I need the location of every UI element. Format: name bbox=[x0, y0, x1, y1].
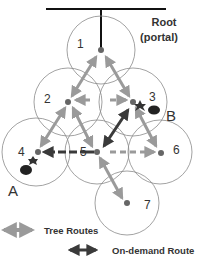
node-7-dot bbox=[124, 200, 130, 206]
endpoint-a-label: A bbox=[8, 182, 18, 199]
tree-routes-legend-label: Tree Routes bbox=[44, 225, 98, 236]
root-portal-bar bbox=[46, 9, 166, 50]
node-2-label: 2 bbox=[44, 92, 51, 106]
legend: Tree Routes On-demand Route bbox=[4, 225, 194, 256]
node-5-dot bbox=[94, 149, 100, 155]
node-3-label: 3 bbox=[149, 90, 156, 104]
endpoint-b-device bbox=[148, 106, 160, 115]
node-5-label: 5 bbox=[80, 145, 87, 159]
root-label: Root bbox=[151, 16, 176, 28]
on-demand-route-legend-label: On-demand Route bbox=[112, 245, 194, 256]
node-6-label: 6 bbox=[173, 143, 180, 157]
portal-label: (portal) bbox=[140, 31, 178, 43]
endpoint-a-device bbox=[20, 165, 32, 175]
node-4-label: 4 bbox=[18, 145, 25, 159]
star-icon-a bbox=[28, 156, 38, 165]
tree-routes bbox=[41, 57, 156, 198]
node-6-dot bbox=[158, 150, 164, 156]
node-1-dot bbox=[98, 47, 104, 53]
node-2-dot bbox=[65, 99, 71, 105]
network-diagram: 1 2 3 4 5 6 7 Root (portal) B A Tree Rou… bbox=[0, 0, 206, 263]
node-4-dot bbox=[35, 149, 41, 155]
coverage-circles bbox=[2, 16, 192, 235]
node-7-label: 7 bbox=[144, 198, 151, 212]
endpoint-b-label: B bbox=[166, 107, 176, 124]
node-1-label: 1 bbox=[77, 37, 84, 51]
